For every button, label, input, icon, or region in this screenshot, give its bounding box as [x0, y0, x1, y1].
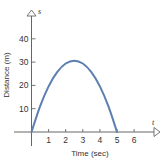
y-tick-label: 10: [19, 104, 29, 114]
x-tick-label: 3: [80, 135, 85, 145]
x-tick-label: 5: [115, 135, 120, 145]
y-ticks: 10203040: [19, 34, 35, 114]
x-axis-title: Time (sec): [71, 149, 109, 158]
y-tick-label: 20: [19, 80, 29, 90]
x-axis-variable: t: [152, 118, 155, 127]
y-axis-title: Distance (m): [2, 52, 11, 98]
x-axis-arrow-icon: [154, 128, 160, 137]
y-tick-label: 30: [19, 57, 29, 67]
x-tick-label: 4: [98, 135, 103, 145]
y-axis-arrow-icon: [27, 10, 36, 16]
distance-curve: [32, 61, 118, 132]
x-tick-label: 6: [132, 135, 137, 145]
x-tick-label: 2: [63, 135, 68, 145]
y-tick-label: 40: [19, 34, 29, 44]
y-axis-variable: s: [38, 7, 41, 16]
x-ticks: 123456: [46, 129, 137, 145]
chart: t s 123456 10203040 Time (sec) Distance …: [0, 0, 161, 161]
x-tick-label: 1: [46, 135, 51, 145]
